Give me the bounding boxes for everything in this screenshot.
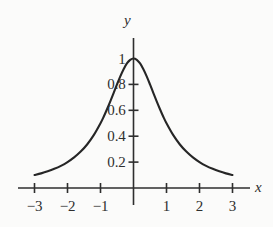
y-tick-label: 0.6: [107, 103, 125, 118]
axes-group: [18, 38, 250, 205]
x-axis-label: x: [255, 180, 262, 195]
x-tick-label: −1: [93, 199, 109, 214]
y-tick-label: 0.4: [107, 129, 125, 144]
x-tick-label: 3: [229, 199, 236, 214]
y-tick-label: 1: [118, 51, 125, 66]
x-tick-label: 2: [196, 199, 203, 214]
plot-canvas: [0, 0, 273, 227]
y-tick-label: 0.8: [107, 77, 125, 92]
y-axis-label: y: [124, 13, 131, 28]
x-tick-label: 1: [163, 199, 170, 214]
y-tick-label: 0.2: [107, 155, 125, 170]
x-tick-label: −2: [60, 199, 76, 214]
figure-container: −3−2−1123 0.20.40.60.81 y x: [0, 0, 273, 227]
x-tick-label: −3: [27, 199, 43, 214]
